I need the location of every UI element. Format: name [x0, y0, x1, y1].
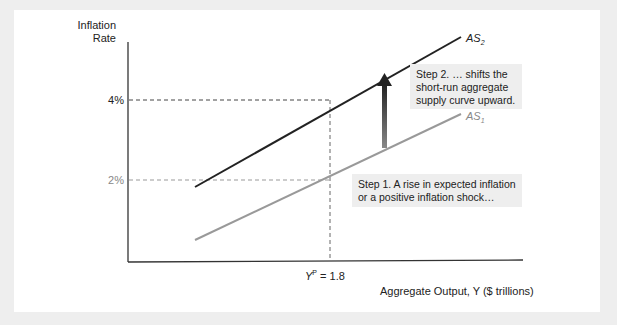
- step1-annotation: Step 1. A rise in expected inflation or …: [352, 174, 522, 207]
- step2-line3: supply curve upward.: [416, 94, 516, 107]
- x-axis: [128, 260, 523, 262]
- as2-label-text: AS: [466, 32, 481, 44]
- step1-line1: Step 1. A rise in expected inflation: [358, 178, 516, 191]
- y-tick-2pct: 2%: [100, 174, 124, 187]
- y-tick-4pct: 4%: [100, 94, 124, 107]
- as2-label-sub: 2: [481, 39, 485, 46]
- step2-line1: Step 2. … shifts the: [416, 68, 516, 81]
- step1-line2: or a positive inflation shock…: [358, 191, 516, 204]
- x-axis-label: Aggregate Output, Y ($ trillions): [380, 285, 534, 298]
- as1-label-sub: 1: [481, 117, 485, 124]
- as2-label: AS2: [466, 32, 485, 49]
- as1-label: AS1: [466, 110, 485, 127]
- y-axis-label-line1: Inflation: [58, 19, 116, 32]
- as1-label-text: AS: [466, 110, 481, 122]
- step2-annotation: Step 2. … shifts the short-run aggregate…: [410, 64, 522, 109]
- step2-line2: short-run aggregate: [416, 81, 516, 94]
- y-axis-label: Inflation Rate: [58, 19, 116, 45]
- yp-value: = 1.8: [317, 270, 345, 282]
- as2-curve: [195, 37, 461, 187]
- x-tick-potential-output: YP = 1.8: [305, 266, 345, 283]
- shift-up-arrow-icon: [377, 73, 392, 148]
- y-axis-label-line2: Rate: [58, 32, 116, 45]
